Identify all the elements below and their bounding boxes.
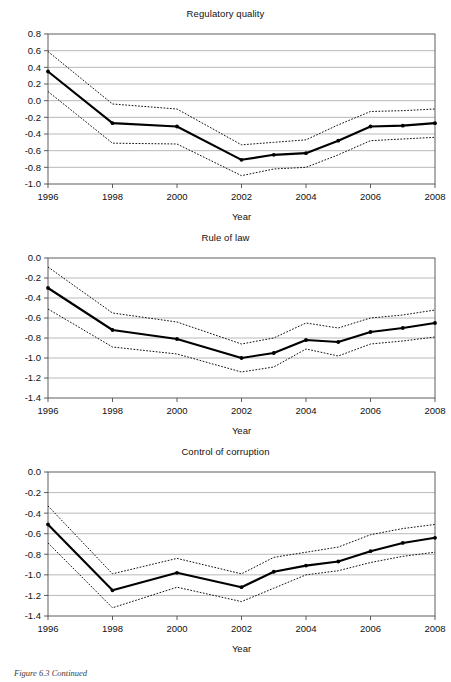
data-point-marker [336,139,340,143]
x-tick-label: 1998 [102,623,123,634]
x-tick-label: 1996 [37,623,58,634]
chart-svg: 0.80.60.40.20.0-0.2-0.4-0.6-0.8-1.019961… [0,20,451,230]
series-line [48,506,435,574]
data-point-marker [272,153,276,157]
y-gridlines: 0.0-0.2-0.4-0.6-0.8-1.0-1.2-1.4 [25,466,435,621]
y-tick-label: -1.2 [25,372,41,383]
data-point-marker [401,124,405,128]
data-point-marker [304,151,308,155]
data-point-marker [175,571,179,575]
y-tick-label: 0.0 [28,95,41,106]
x-tick-label: 2004 [295,623,316,634]
plot-frame [48,258,435,398]
chart-title: Control of corruption [0,446,451,457]
chart-svg: 0.0-0.2-0.4-0.6-0.8-1.0-1.2-1.4199619982… [0,244,451,444]
data-point-marker [46,70,50,74]
y-tick-label: -0.2 [25,487,41,498]
y-tick-label: -1.4 [25,392,41,403]
y-tick-label: -0.2 [25,112,41,123]
y-tick-label: -1.4 [25,610,41,621]
y-tick-label: -1.2 [25,590,41,601]
x-axis-title: Year [232,643,251,654]
x-axis-title: Year [232,211,251,222]
data-point-marker [336,560,340,564]
x-tick-label: 2004 [295,405,316,416]
y-tick-label: -0.6 [25,528,41,539]
chart-title: Rule of law [0,232,451,243]
x-tick-label: 2002 [231,623,252,634]
y-tick-label: 0.2 [28,78,41,89]
y-tick-label: 0.0 [28,252,41,263]
series-line [48,52,435,145]
figure-caption: Figure 6.3 Continued [14,668,87,678]
chart-title: Regulatory quality [0,8,451,19]
y-tick-label: -1.0 [25,569,41,580]
plot-frame [48,472,435,616]
data-point-marker [46,523,50,527]
x-tick-label: 2006 [360,191,381,202]
y-tick-label: -0.6 [25,145,41,156]
data-point-marker [240,158,244,162]
x-axis: 1996199820002002200420062008 [37,398,445,416]
x-tick-label: 2008 [424,623,445,634]
x-tick-label: 2008 [424,405,445,416]
series-line [48,288,435,358]
y-tick-label: -0.6 [25,312,41,323]
data-point-marker [272,570,276,574]
data-point-marker [240,585,244,589]
y-tick-label: -0.4 [25,292,41,303]
y-tick-label: -0.4 [25,128,41,139]
data-point-marker [175,337,179,341]
y-tick-label: -0.8 [25,162,41,173]
data-point-marker [433,321,437,325]
chart-panel-rule-of-law: Rule of law 0.0-0.2-0.4-0.6-0.8-1.0-1.2-… [0,232,451,444]
y-tick-label: -1.0 [25,352,41,363]
data-point-marker [336,340,340,344]
data-point-marker [433,536,437,540]
y-tick-label: 0.0 [28,466,41,477]
data-point-marker [272,351,276,355]
chart-svg: 0.0-0.2-0.4-0.6-0.8-1.0-1.2-1.4199619982… [0,458,451,662]
data-point-marker [111,328,115,332]
data-point-marker [401,541,405,545]
y-tick-label: 0.8 [28,28,41,39]
figure-container: Regulatory quality 0.80.60.40.20.0-0.2-0… [0,0,451,682]
data-point-marker [304,338,308,342]
chart-panel-regulatory-quality: Regulatory quality 0.80.60.40.20.0-0.2-0… [0,8,451,230]
data-point-marker [111,121,115,125]
series-line [48,92,435,176]
x-tick-label: 2000 [166,405,187,416]
y-tick-label: -0.8 [25,332,41,343]
x-tick-label: 1998 [102,191,123,202]
x-tick-label: 1998 [102,405,123,416]
x-tick-label: 1996 [37,191,58,202]
data-point-marker [46,286,50,290]
series-line [48,543,435,608]
x-tick-label: 2008 [424,191,445,202]
data-point-marker [304,564,308,568]
x-tick-label: 1996 [37,405,58,416]
x-axis: 1996199820002002200420062008 [37,184,445,202]
data-point-marker [111,588,115,592]
series-line [48,267,435,344]
x-axis-title: Year [232,425,251,436]
y-tick-label: 0.4 [28,62,41,73]
data-point-marker [433,121,437,125]
y-tick-label: -0.8 [25,549,41,560]
series-line [48,524,435,590]
x-tick-label: 2002 [231,191,252,202]
x-tick-label: 2004 [295,191,316,202]
chart-panel-control-of-corruption: Control of corruption 0.0-0.2-0.4-0.6-0.… [0,446,451,662]
y-tick-label: 0.6 [28,45,41,56]
data-point-marker [369,549,373,553]
y-tick-label: -0.2 [25,272,41,283]
data-point-marker [240,356,244,360]
data-point-marker [401,326,405,330]
series-line [48,72,435,160]
series-line [48,309,435,372]
x-tick-label: 2006 [360,623,381,634]
y-tick-label: -0.4 [25,508,41,519]
y-tick-label: -1.0 [25,178,41,189]
data-point-marker [369,125,373,129]
y-gridlines: 0.0-0.2-0.4-0.6-0.8-1.0-1.2-1.4 [25,252,435,403]
